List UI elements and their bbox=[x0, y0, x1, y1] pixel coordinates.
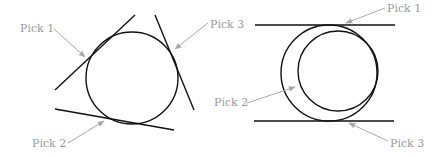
tangent-picks-diagram: Pick 1 Pick 2 Pick 3 Pick 1 Pick 2 Pick … bbox=[0, 0, 443, 157]
arrow-pick-3-left bbox=[175, 23, 208, 49]
tangent-line-2 bbox=[55, 109, 174, 130]
right-diagram: Pick 1 Pick 2 Pick 3 bbox=[214, 2, 424, 150]
label-pick-3-right: Pick 3 bbox=[390, 137, 424, 150]
label-pick-3-left: Pick 3 bbox=[210, 18, 244, 31]
label-pick-1-right: Pick 1 bbox=[387, 2, 421, 15]
arrow-pick-2-right bbox=[247, 87, 295, 103]
label-pick-1-left: Pick 1 bbox=[20, 22, 54, 35]
arrow-pick-1-right bbox=[346, 8, 385, 23]
left-circle bbox=[86, 32, 178, 124]
left-diagram: Pick 1 Pick 2 Pick 3 bbox=[20, 15, 244, 150]
label-pick-2-right: Pick 2 bbox=[214, 96, 248, 109]
arrow-pick-1-left bbox=[54, 29, 85, 57]
inner-circle bbox=[298, 31, 378, 111]
label-pick-2-left: Pick 2 bbox=[32, 137, 66, 150]
arrow-pick-3-right bbox=[349, 123, 388, 141]
tangent-line-1 bbox=[55, 15, 135, 90]
arrow-pick-2-left bbox=[68, 121, 104, 143]
